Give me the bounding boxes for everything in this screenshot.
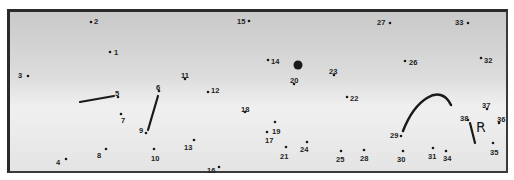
dot-label-36: 36	[497, 115, 505, 124]
dot-label-30: 30	[397, 155, 405, 164]
dot-7	[120, 113, 123, 116]
dot-label-28: 28	[360, 154, 368, 163]
dot-label-33: 33	[455, 18, 463, 27]
dot-26	[404, 60, 407, 63]
dot-label-12: 12	[211, 86, 219, 95]
dot-21	[285, 146, 288, 149]
dot-label-11: 11	[181, 71, 189, 80]
dot-9	[145, 132, 148, 135]
dot-30	[402, 150, 405, 153]
drawn-line-1	[80, 96, 114, 102]
dot-1	[109, 51, 112, 54]
dot-32	[480, 57, 483, 60]
dot-15	[248, 20, 251, 23]
dot-label-19: 19	[272, 127, 280, 136]
dot-2	[90, 21, 93, 24]
dot-34	[445, 150, 448, 153]
dot-label-10: 10	[151, 154, 159, 163]
dot-4	[65, 158, 68, 161]
dot-33	[467, 22, 470, 25]
dot-label-25: 25	[336, 155, 344, 164]
dot-label-32: 32	[484, 56, 492, 65]
dot-label-9: 9	[139, 126, 143, 135]
dot-label-22: 22	[350, 94, 358, 103]
dot-label-17: 17	[265, 136, 273, 145]
dot-label-31: 31	[428, 152, 436, 161]
handwritten-letter: R	[476, 119, 486, 135]
dot-35	[492, 142, 495, 145]
dot-to-dot-canvas: R 12345678910111213141516171819202122232…	[0, 0, 514, 180]
dot-label-27: 27	[377, 18, 385, 27]
drawn-line-3	[470, 123, 475, 143]
dot-29	[400, 135, 403, 138]
dot-label-35: 35	[490, 148, 498, 157]
dot-19	[274, 121, 277, 124]
dot-3	[27, 75, 30, 78]
dot-24	[306, 141, 309, 144]
dot-label-38: 38	[460, 114, 468, 123]
dot-27	[389, 22, 392, 25]
dot-label-23: 23	[329, 67, 337, 76]
dot-label-29: 29	[390, 131, 398, 140]
dot-31	[432, 147, 435, 150]
dot-label-18: 18	[241, 105, 249, 114]
dot-12	[207, 91, 210, 94]
dot-label-1: 1	[114, 48, 118, 57]
big-dot	[294, 61, 303, 70]
dot-28	[363, 149, 366, 152]
dot-label-2: 2	[94, 17, 98, 26]
dot-label-24: 24	[300, 145, 309, 154]
dot-label-21: 21	[280, 152, 288, 161]
dot-10	[153, 148, 156, 151]
dot-14	[267, 59, 270, 62]
dot-label-4: 4	[56, 158, 61, 167]
dot-label-26: 26	[409, 58, 417, 67]
dot-label-37: 37	[482, 101, 490, 110]
dot-label-16: 16	[207, 166, 215, 175]
dot-label-6: 6	[156, 83, 160, 92]
dot-label-3: 3	[18, 71, 22, 80]
dot-16	[218, 166, 221, 169]
dot-8	[105, 148, 108, 151]
dot-label-8: 8	[97, 151, 101, 160]
dot-25	[340, 150, 343, 153]
drawn-arc	[403, 95, 451, 131]
drawn-line-2	[148, 96, 158, 130]
dot-22	[346, 96, 349, 99]
dot-label-15: 15	[237, 17, 245, 26]
dot-label-14: 14	[271, 57, 280, 66]
dot-label-7: 7	[121, 116, 125, 125]
dot-label-20: 20	[290, 76, 298, 85]
dot-label-5: 5	[115, 89, 119, 98]
dot-label-34: 34	[443, 154, 452, 163]
dot-label-13: 13	[184, 143, 192, 152]
dot-13	[193, 139, 196, 142]
dot-17	[266, 131, 269, 134]
